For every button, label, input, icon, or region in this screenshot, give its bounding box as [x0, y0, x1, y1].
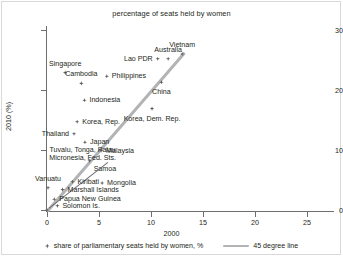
- x-tick-5: [99, 212, 100, 217]
- y-axis-title: 2010 (%): [4, 91, 13, 143]
- y-ticklabel-20: 20: [303, 86, 343, 95]
- point-label: Singapore: [49, 59, 81, 67]
- data-point-marker[interactable]: [75, 120, 80, 125]
- diamond-marker-icon: [45, 244, 50, 249]
- y-tick-30: [41, 30, 46, 31]
- x-ticklabel-20: 20: [251, 218, 259, 227]
- line-swatch-icon: [223, 245, 249, 248]
- point-label-island-group: Tuvalu, Tonga, Palau Micronesia, Fed. St…: [49, 146, 116, 163]
- data-point-marker[interactable]: [72, 132, 77, 137]
- point-label: Lao PDR: [124, 55, 153, 63]
- x-ticklabel-10: 10: [147, 218, 155, 227]
- y-ticklabel-0: 0: [303, 206, 343, 215]
- point-label: Vietnam: [169, 41, 195, 49]
- y-ticklabel-30: 30: [303, 26, 343, 35]
- point-label: Korea, Rep.: [82, 118, 120, 126]
- point-label: Solomon Is.: [62, 202, 99, 210]
- data-point-marker[interactable]: [150, 106, 155, 111]
- legend-label-points: share of parliamentary seats held by wom…: [54, 242, 203, 250]
- data-point-marker[interactable]: [82, 98, 87, 103]
- x-ticklabel-15: 15: [199, 218, 207, 227]
- y-tick-20: [41, 90, 46, 91]
- point-label: Thailand: [42, 130, 69, 138]
- point-label: Korea, Dem. Rep.: [124, 114, 181, 122]
- point-label: Vanuatu: [35, 175, 61, 183]
- data-point-marker[interactable]: [155, 57, 160, 62]
- plot-area: 30 20 10 0 0 5 10 15 20 25 2010 (%) 2000…: [0, 0, 343, 257]
- y-axis-line: [46, 26, 47, 212]
- point-label: China: [152, 88, 171, 96]
- point-label: Philippines: [112, 72, 146, 80]
- x-tick-15: [203, 212, 204, 217]
- data-point-marker[interactable]: [55, 204, 60, 209]
- x-tick-0: [47, 212, 48, 217]
- legend-label-line: 45 degree line: [253, 242, 298, 250]
- x-tick-20: [255, 212, 256, 217]
- y-tick-10: [41, 150, 46, 151]
- chart-legend: share of parliamentary seats held by wom…: [0, 239, 343, 253]
- data-point-marker[interactable]: [83, 140, 88, 145]
- data-point-marker[interactable]: [166, 57, 171, 62]
- x-tick-10: [151, 212, 152, 217]
- data-point-marker[interactable]: [79, 81, 84, 86]
- x-axis-title: 2000: [0, 229, 343, 238]
- legend-item-line: 45 degree line: [223, 242, 298, 250]
- point-label: Cambodia: [65, 70, 97, 78]
- x-ticklabel-5: 5: [97, 218, 101, 227]
- data-point-marker[interactable]: [105, 74, 110, 79]
- point-label: Mongolia: [107, 179, 136, 187]
- x-ticklabel-0: 0: [45, 218, 49, 227]
- x-ticklabel-25: 25: [303, 218, 311, 227]
- x-tick-25: [307, 212, 308, 217]
- y-ticklabel-10: 10: [303, 146, 343, 155]
- legend-item-points: share of parliamentary seats held by wom…: [45, 242, 203, 250]
- x-axis-line: [46, 211, 334, 212]
- chart-container: percentage of seats held by women 30 20 …: [0, 0, 343, 257]
- point-label: Indonesia: [89, 96, 120, 104]
